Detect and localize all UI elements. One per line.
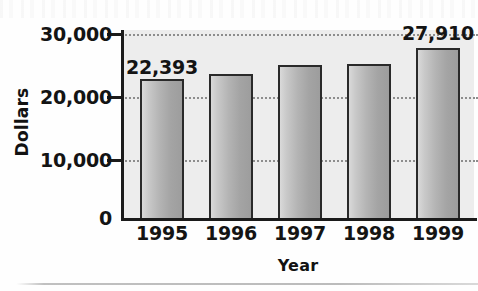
bar-1995 [140,79,184,220]
y-tick-label-30000: 30,000 [14,23,112,45]
x-tick-label-1998: 1998 [329,222,409,244]
bar-1998 [347,64,391,220]
figure-bottom-rule [16,283,478,285]
x-axis-line [121,218,477,221]
y-tick-label-0: 0 [14,207,112,229]
bar-1997 [278,65,322,220]
x-tick-label-1997: 1997 [260,222,340,244]
x-axis-title: Year [122,256,474,275]
x-tick-label-1996: 1996 [191,222,271,244]
bar-1996 [209,74,253,220]
value-label-1999: 27,910 [384,22,478,44]
x-tick-label-1999: 1999 [398,222,478,244]
y-axis-title: Dollars [12,77,32,167]
x-tick-label-1995: 1995 [122,222,202,244]
value-label-1995: 22,393 [108,56,216,78]
bar-chart-figure: 30,000 20,000 10,000 0 22,393 27,910 199… [0,0,478,291]
bar-1999 [416,48,460,220]
